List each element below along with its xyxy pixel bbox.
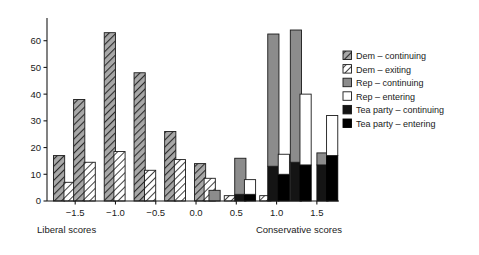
y-tick-label: 30 — [30, 115, 41, 126]
bar-segment — [278, 174, 289, 201]
bars-layer — [53, 30, 337, 201]
bar-segment — [74, 99, 85, 201]
x-axis-label-right: Conservative scores — [256, 224, 342, 235]
x-tick-label: −0.5 — [146, 207, 165, 218]
bar-segment — [84, 162, 95, 201]
legend-label: Dem – exiting — [356, 65, 411, 75]
legend-label: Tea party – entering — [356, 119, 436, 129]
legend-label: Dem – continuing — [356, 51, 426, 61]
histogram-svg: 0102030405060−1.5−1.0−0.50.00.51.01.5Lib… — [0, 0, 479, 255]
legend-swatch — [343, 65, 352, 74]
legend-swatch — [343, 78, 352, 87]
legend-swatch — [343, 105, 352, 114]
legend: Dem – continuingDem – exitingRep – conti… — [343, 51, 444, 129]
bar-segment — [278, 154, 289, 174]
bar-segment — [300, 165, 311, 201]
bar-segment — [53, 156, 64, 201]
y-tick-label: 40 — [30, 89, 41, 100]
bar-segment — [114, 152, 125, 201]
bar-segment — [209, 190, 220, 201]
bar-segment — [134, 73, 145, 201]
bar-segment — [268, 166, 279, 201]
legend-swatch — [343, 51, 352, 60]
bar-segment — [268, 34, 279, 166]
bar-segment — [327, 116, 338, 156]
x-tick-label: −1.0 — [106, 207, 125, 218]
x-tick-label: 0.0 — [189, 207, 202, 218]
bar-segment — [327, 156, 338, 201]
legend-label: Tea party – continuing — [356, 105, 444, 115]
bar-segment — [174, 160, 185, 201]
x-tick-label: 0.5 — [230, 207, 243, 218]
x-tick-label: 1.5 — [310, 207, 323, 218]
chart-figure: 0102030405060−1.5−1.0−0.50.00.51.01.5Lib… — [0, 0, 479, 255]
y-tick-label: 20 — [30, 142, 41, 153]
bar-segment — [145, 170, 156, 201]
y-tick-label: 50 — [30, 62, 41, 73]
legend-swatch — [343, 92, 352, 101]
legend-label: Rep – entering — [356, 92, 415, 102]
bar-segment — [244, 180, 255, 195]
x-tick-label: −1.5 — [66, 207, 85, 218]
x-tick-label: 1.0 — [270, 207, 283, 218]
y-tick-label: 0 — [36, 195, 41, 206]
x-axis-label-left: Liberal scores — [37, 224, 96, 235]
legend-swatch — [343, 119, 352, 128]
legend-label: Rep – continuing — [356, 78, 424, 88]
bar-segment — [244, 194, 255, 201]
y-tick-label: 60 — [30, 35, 41, 46]
bar-segment — [300, 94, 311, 165]
bar-segment — [224, 196, 235, 201]
y-tick-label: 10 — [30, 169, 41, 180]
